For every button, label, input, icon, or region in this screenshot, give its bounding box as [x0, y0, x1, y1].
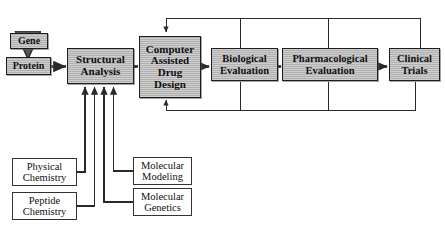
- connector-genetics-to-structural: [104, 87, 133, 202]
- node-pharmacological-evaluation[interactable]: Pharmacological Evaluation: [282, 48, 378, 81]
- connector-feedback-top-to-cadd: [166, 18, 420, 48]
- connector-feedback-bottom-to-cadd: [166, 82, 415, 110]
- node-peptide-chemistry[interactable]: Peptide Chemistry: [12, 192, 77, 220]
- flowchart-canvas: Gene Protein Structural Analysis Compute…: [0, 0, 445, 239]
- node-physical-chemistry-label: Physical Chemistry: [21, 161, 69, 183]
- connector-modeling-to-structural: [114, 87, 134, 171]
- node-molecular-genetics-label: Molecular Genetics: [139, 191, 186, 213]
- node-gene-label: Gene: [16, 36, 42, 47]
- node-peptide-chemistry-label: Peptide Chemistry: [21, 195, 69, 217]
- node-structural-analysis-label: Structural Analysis: [74, 54, 127, 77]
- connector-peptide-to-structural: [77, 87, 95, 206]
- node-clinical-trials[interactable]: Clinical Trials: [389, 48, 440, 81]
- node-molecular-modeling[interactable]: Molecular Modeling: [133, 157, 192, 185]
- node-computer-assisted-drug-design[interactable]: Computer Assisted Drug Design: [139, 36, 201, 98]
- node-physical-chemistry[interactable]: Physical Chemistry: [12, 158, 77, 186]
- node-structural-analysis[interactable]: Structural Analysis: [67, 48, 134, 84]
- node-molecular-modeling-label: Molecular Modeling: [139, 160, 186, 182]
- node-biological-evaluation-label: Biological Evaluation: [218, 53, 271, 75]
- node-gene[interactable]: Gene: [10, 33, 48, 49]
- node-clinical-trials-label: Clinical Trials: [395, 53, 434, 75]
- connector-physical-to-structural: [77, 87, 85, 172]
- node-protein-label: Protein: [11, 61, 46, 72]
- node-molecular-genetics[interactable]: Molecular Genetics: [133, 188, 192, 216]
- node-protein[interactable]: Protein: [6, 57, 51, 75]
- node-pharmacological-evaluation-label: Pharmacological Evaluation: [290, 53, 369, 75]
- node-computer-assisted-drug-design-label: Computer Assisted Drug Design: [144, 44, 196, 91]
- node-biological-evaluation[interactable]: Biological Evaluation: [211, 48, 278, 81]
